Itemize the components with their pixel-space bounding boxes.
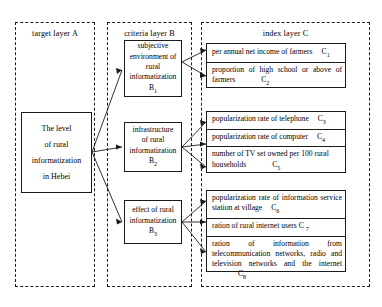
index-row-c7[interactable]: ration of rural internet users C 7 xyxy=(207,219,345,237)
node-criteria-b3-effect[interactable]: effect of rural informatization B3 xyxy=(124,200,182,244)
node-b1-code: B1 xyxy=(149,83,157,96)
index-row-c2[interactable]: proportion of high school or above of fa… xyxy=(207,63,345,90)
node-b2-line-3: informatization xyxy=(130,146,177,156)
diagram-canvas: target layer A criteria layer B index la… xyxy=(0,0,382,307)
node-b3-line-2: informatization xyxy=(130,216,177,226)
node-b1-line-3: rural xyxy=(146,62,160,72)
node-target-line-3: informatization xyxy=(32,153,81,169)
node-b3-code: B3 xyxy=(149,226,157,239)
node-criteria-b2-infrastructure[interactable]: infrastructure of rural informatization … xyxy=(124,122,182,172)
index-row-c5[interactable]: number of TV set owned per 100 rural hou… xyxy=(207,147,345,174)
index-row-c6-text: popularization rate of information servi… xyxy=(212,193,342,216)
index-row-c4-text: popularization rate of computerC4 xyxy=(212,132,342,145)
node-target-level-rural-informatization[interactable]: The level of rural informatization in He… xyxy=(21,112,92,193)
index-row-c1[interactable]: per annual net income of farmersC1 xyxy=(207,44,345,63)
index-row-c6[interactable]: popularization rate of information servi… xyxy=(207,191,345,219)
index-group-b2: popularization rate of telephoneC3 popul… xyxy=(206,111,346,173)
index-group-b3: popularization rate of information servi… xyxy=(206,190,346,272)
index-row-c3-text: popularization rate of telephoneC3 xyxy=(212,114,342,127)
node-b2-line-2: of rural xyxy=(142,135,165,145)
node-target-line-2: of rural xyxy=(45,137,69,153)
index-row-c5-text: number of TV set owned per 100 rural hou… xyxy=(212,149,342,172)
node-criteria-b1-subjective-environment[interactable]: subjective environment of rural informat… xyxy=(124,40,182,97)
index-row-c8[interactable]: ration of information from telecommunica… xyxy=(207,237,345,284)
node-b3-line-1: effect of rural xyxy=(132,205,174,215)
index-row-c4[interactable]: popularization rate of computerC4 xyxy=(207,130,345,148)
node-b1-line-2: environment of xyxy=(130,52,177,62)
node-target-line-4: in Hebei xyxy=(43,169,70,185)
node-b1-line-4: informatization xyxy=(130,72,177,82)
index-group-b1: per annual net income of farmersC1 propo… xyxy=(206,43,346,88)
index-row-c8-text: ration of information from telecommunica… xyxy=(212,239,342,282)
node-b1-line-1: subjective xyxy=(138,41,169,51)
node-target-line-1: The level xyxy=(42,121,72,137)
index-row-c3[interactable]: popularization rate of telephoneC3 xyxy=(207,112,345,130)
index-row-c7-text: ration of rural internet users C 7 xyxy=(212,221,342,234)
index-row-c1-text: per annual net income of farmersC1 xyxy=(212,47,342,60)
index-row-c2-text: proportion of high school or above of fa… xyxy=(212,65,342,88)
node-b2-line-1: infrastructure xyxy=(133,125,174,135)
node-b2-code: B2 xyxy=(149,156,157,169)
